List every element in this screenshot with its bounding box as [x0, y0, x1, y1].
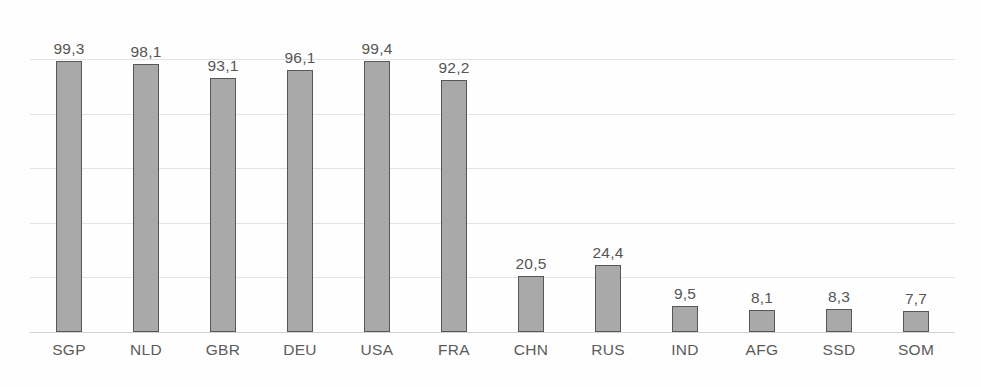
category-label-som: SOM [881, 341, 951, 359]
bar-value-label: 9,5 [674, 285, 696, 303]
bar-group: 8,3 [826, 59, 852, 332]
bar[interactable] [826, 309, 852, 332]
category-axis-labels: SGPNLDGBRDEUUSAFRACHNRUSINDAFGSSDSOM [30, 341, 955, 371]
bar-group: 98,1 [133, 59, 159, 332]
bar-group: 99,3 [56, 59, 82, 332]
bar-value-label: 8,3 [828, 288, 850, 306]
bar-value-label: 8,1 [751, 289, 773, 307]
category-label-ssd: SSD [804, 341, 874, 359]
bar-value-label: 93,1 [208, 57, 239, 75]
bar-group: 7,7 [903, 59, 929, 332]
category-label-ind: IND [650, 341, 720, 359]
bar[interactable] [133, 64, 159, 332]
bar[interactable] [364, 61, 390, 332]
bar-chart: 99,398,193,196,199,492,220,524,49,58,18,… [0, 0, 981, 387]
bar-value-label: 96,1 [285, 49, 316, 67]
bar-group: 93,1 [210, 59, 236, 332]
bar[interactable] [903, 311, 929, 332]
bar[interactable] [287, 70, 313, 332]
bar-value-label: 24,4 [593, 244, 624, 262]
bar-value-label: 99,4 [362, 40, 393, 58]
bar-value-label: 7,7 [905, 290, 927, 308]
axis-baseline [30, 332, 955, 333]
bar[interactable] [441, 80, 467, 332]
bar-group: 92,2 [441, 59, 467, 332]
bar-group: 99,4 [364, 59, 390, 332]
category-label-sgp: SGP [34, 341, 104, 359]
bar-value-label: 99,3 [54, 40, 85, 58]
category-label-rus: RUS [573, 341, 643, 359]
plot-area: 99,398,193,196,199,492,220,524,49,58,18,… [30, 59, 955, 332]
category-label-usa: USA [342, 341, 412, 359]
category-label-deu: DEU [265, 341, 335, 359]
bar[interactable] [518, 276, 544, 332]
bar-group: 96,1 [287, 59, 313, 332]
category-label-afg: AFG [727, 341, 797, 359]
category-label-nld: NLD [111, 341, 181, 359]
bar-value-label: 98,1 [131, 43, 162, 61]
bar-value-label: 20,5 [516, 255, 547, 273]
bar-group: 20,5 [518, 59, 544, 332]
category-label-gbr: GBR [188, 341, 258, 359]
bar[interactable] [595, 265, 621, 332]
bar[interactable] [672, 306, 698, 332]
category-label-fra: FRA [419, 341, 489, 359]
bars-container: 99,398,193,196,199,492,220,524,49,58,18,… [30, 59, 955, 332]
bar-group: 9,5 [672, 59, 698, 332]
bar[interactable] [210, 78, 236, 332]
bar[interactable] [749, 310, 775, 332]
bar-value-label: 92,2 [439, 59, 470, 77]
bar-group: 8,1 [749, 59, 775, 332]
bar[interactable] [56, 61, 82, 332]
category-label-chn: CHN [496, 341, 566, 359]
bar-group: 24,4 [595, 59, 621, 332]
